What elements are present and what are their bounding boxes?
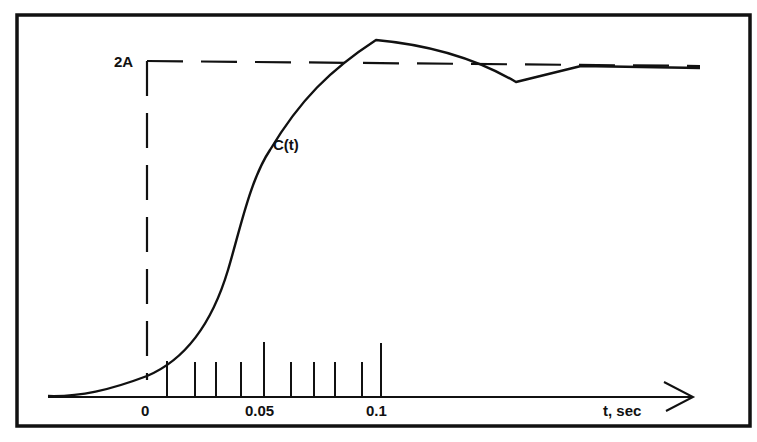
tick-label-0-05: 0.05 xyxy=(245,402,274,419)
curve-label-c-t: C(t) xyxy=(273,136,299,153)
level-2a-label: 2A xyxy=(114,53,133,70)
x-axis-ticks xyxy=(167,342,381,397)
level-2a-dashed-line xyxy=(147,61,700,66)
response-curve-c-t xyxy=(48,40,700,396)
figure-frame xyxy=(17,15,750,426)
tick-label-0: 0 xyxy=(141,402,149,419)
x-axis-label: t, sec xyxy=(603,402,641,419)
tick-label-0-1: 0.1 xyxy=(366,402,387,419)
